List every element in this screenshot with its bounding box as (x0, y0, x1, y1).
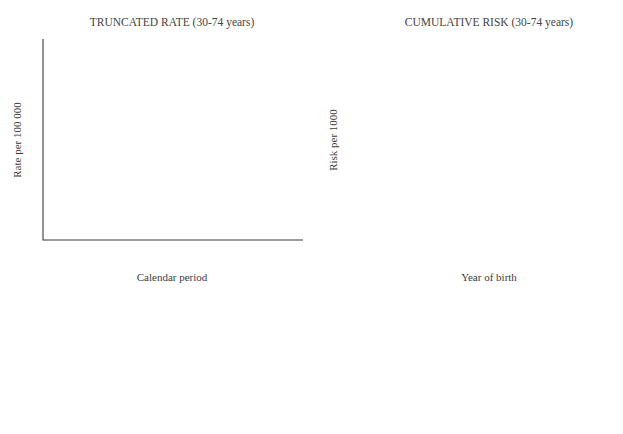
x-axis-label-right: Year of birth (461, 271, 517, 283)
y-axis-label-right: Risk per 1000 (327, 109, 339, 171)
y-axis-label-left: Rate per 100 000 (11, 102, 23, 178)
figure-canvas: TRUNCATED RATE (30-74 years) Rate per 10… (0, 0, 623, 434)
x-axis-label-left: Calendar period (137, 271, 208, 283)
panel-title-cumulative-risk: CUMULATIVE RISK (30-74 years) (405, 16, 573, 29)
panel-title-truncated-rate: TRUNCATED RATE (30-74 years) (90, 16, 255, 29)
figure-background (0, 0, 623, 434)
